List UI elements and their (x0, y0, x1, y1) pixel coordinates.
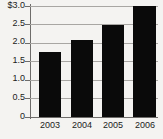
y-axis-labels: $3.0 2.5 2.0 1.5 1.0 0.5 0 (0, 0, 25, 139)
bar-2006 (133, 6, 156, 117)
y-tick-label-3-0: $3.0 (1, 1, 25, 10)
y-tick-label-2-0: 2.0 (1, 37, 25, 46)
y-tick-label-1-0: 1.0 (1, 74, 25, 83)
plot-area (30, 6, 158, 117)
y-tick-label-1-5: 1.5 (1, 56, 25, 65)
y-tick-label-0: 0 (1, 112, 25, 121)
bar-2005 (102, 25, 124, 118)
x-axis-line (30, 117, 158, 118)
x-axis-labels: 2003 2004 2005 2006 (30, 120, 158, 134)
x-tick-label-2006: 2006 (123, 120, 163, 131)
bar-chart-figure: $3.0 2.5 2.0 1.5 1.0 0.5 0 2003 2004 200… (0, 0, 163, 139)
y-tick-label-2-5: 2.5 (1, 19, 25, 28)
bar-2004 (71, 40, 93, 117)
y-tick-label-0-5: 0.5 (1, 93, 25, 102)
bar-2003 (39, 52, 61, 117)
